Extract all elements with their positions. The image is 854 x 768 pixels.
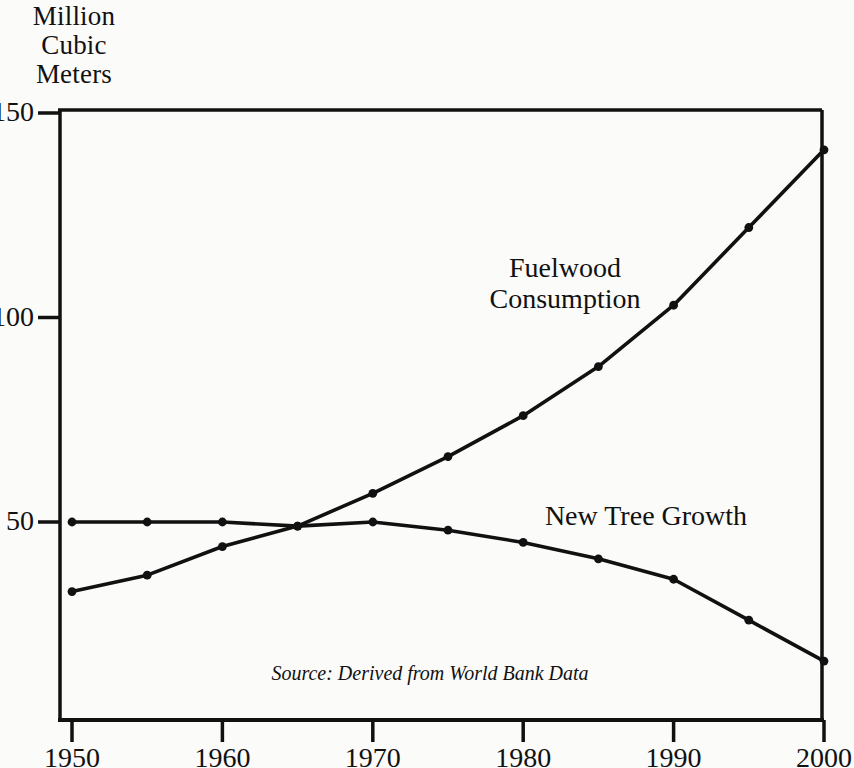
data-point-marker <box>68 518 77 527</box>
data-point-marker <box>820 145 829 154</box>
data-series-group <box>68 145 829 665</box>
data-point-marker <box>444 452 453 461</box>
source-note: Source: Derived from World Bank Data <box>160 662 700 685</box>
data-point-marker <box>293 522 302 531</box>
series-line-new-tree-growth <box>72 522 824 661</box>
series-label-fuelwood-line-1: Fuelwood <box>440 252 690 283</box>
y-tick-label: 100 <box>0 303 34 331</box>
data-point-marker <box>744 616 753 625</box>
data-point-marker <box>519 411 528 420</box>
data-point-marker <box>444 526 453 535</box>
x-tick-marks <box>72 720 824 742</box>
chart-figure: Million Cubic Meters 15010050 1950196019… <box>0 0 854 768</box>
x-tick-label: 1950 <box>12 744 132 768</box>
series-label-fuelwood-consumption: Fuelwood Consumption <box>440 252 690 315</box>
data-point-marker <box>218 518 227 527</box>
x-tick-label: 1990 <box>614 744 734 768</box>
y-tick-marks <box>38 113 60 522</box>
x-tick-label: 2000 <box>764 744 854 768</box>
data-point-marker <box>669 575 678 584</box>
axes-group <box>58 110 824 720</box>
data-point-marker <box>68 587 77 596</box>
data-point-marker <box>218 542 227 551</box>
data-point-marker <box>594 554 603 563</box>
data-point-marker <box>519 538 528 547</box>
data-point-marker <box>143 518 152 527</box>
x-tick-label: 1970 <box>313 744 433 768</box>
x-tick-label: 1960 <box>162 744 282 768</box>
data-point-marker <box>368 489 377 498</box>
y-tick-label: 150 <box>0 98 34 126</box>
y-tick-label: 50 <box>6 507 34 535</box>
data-point-marker <box>594 362 603 371</box>
data-point-marker <box>368 518 377 527</box>
data-point-marker <box>143 571 152 580</box>
plot-canvas <box>0 0 854 768</box>
x-tick-label: 1980 <box>463 744 583 768</box>
series-label-new-tree-growth: New Tree Growth <box>516 500 776 531</box>
data-point-marker <box>820 657 829 666</box>
data-point-marker <box>744 223 753 232</box>
series-label-fuelwood-line-2: Consumption <box>440 283 690 314</box>
